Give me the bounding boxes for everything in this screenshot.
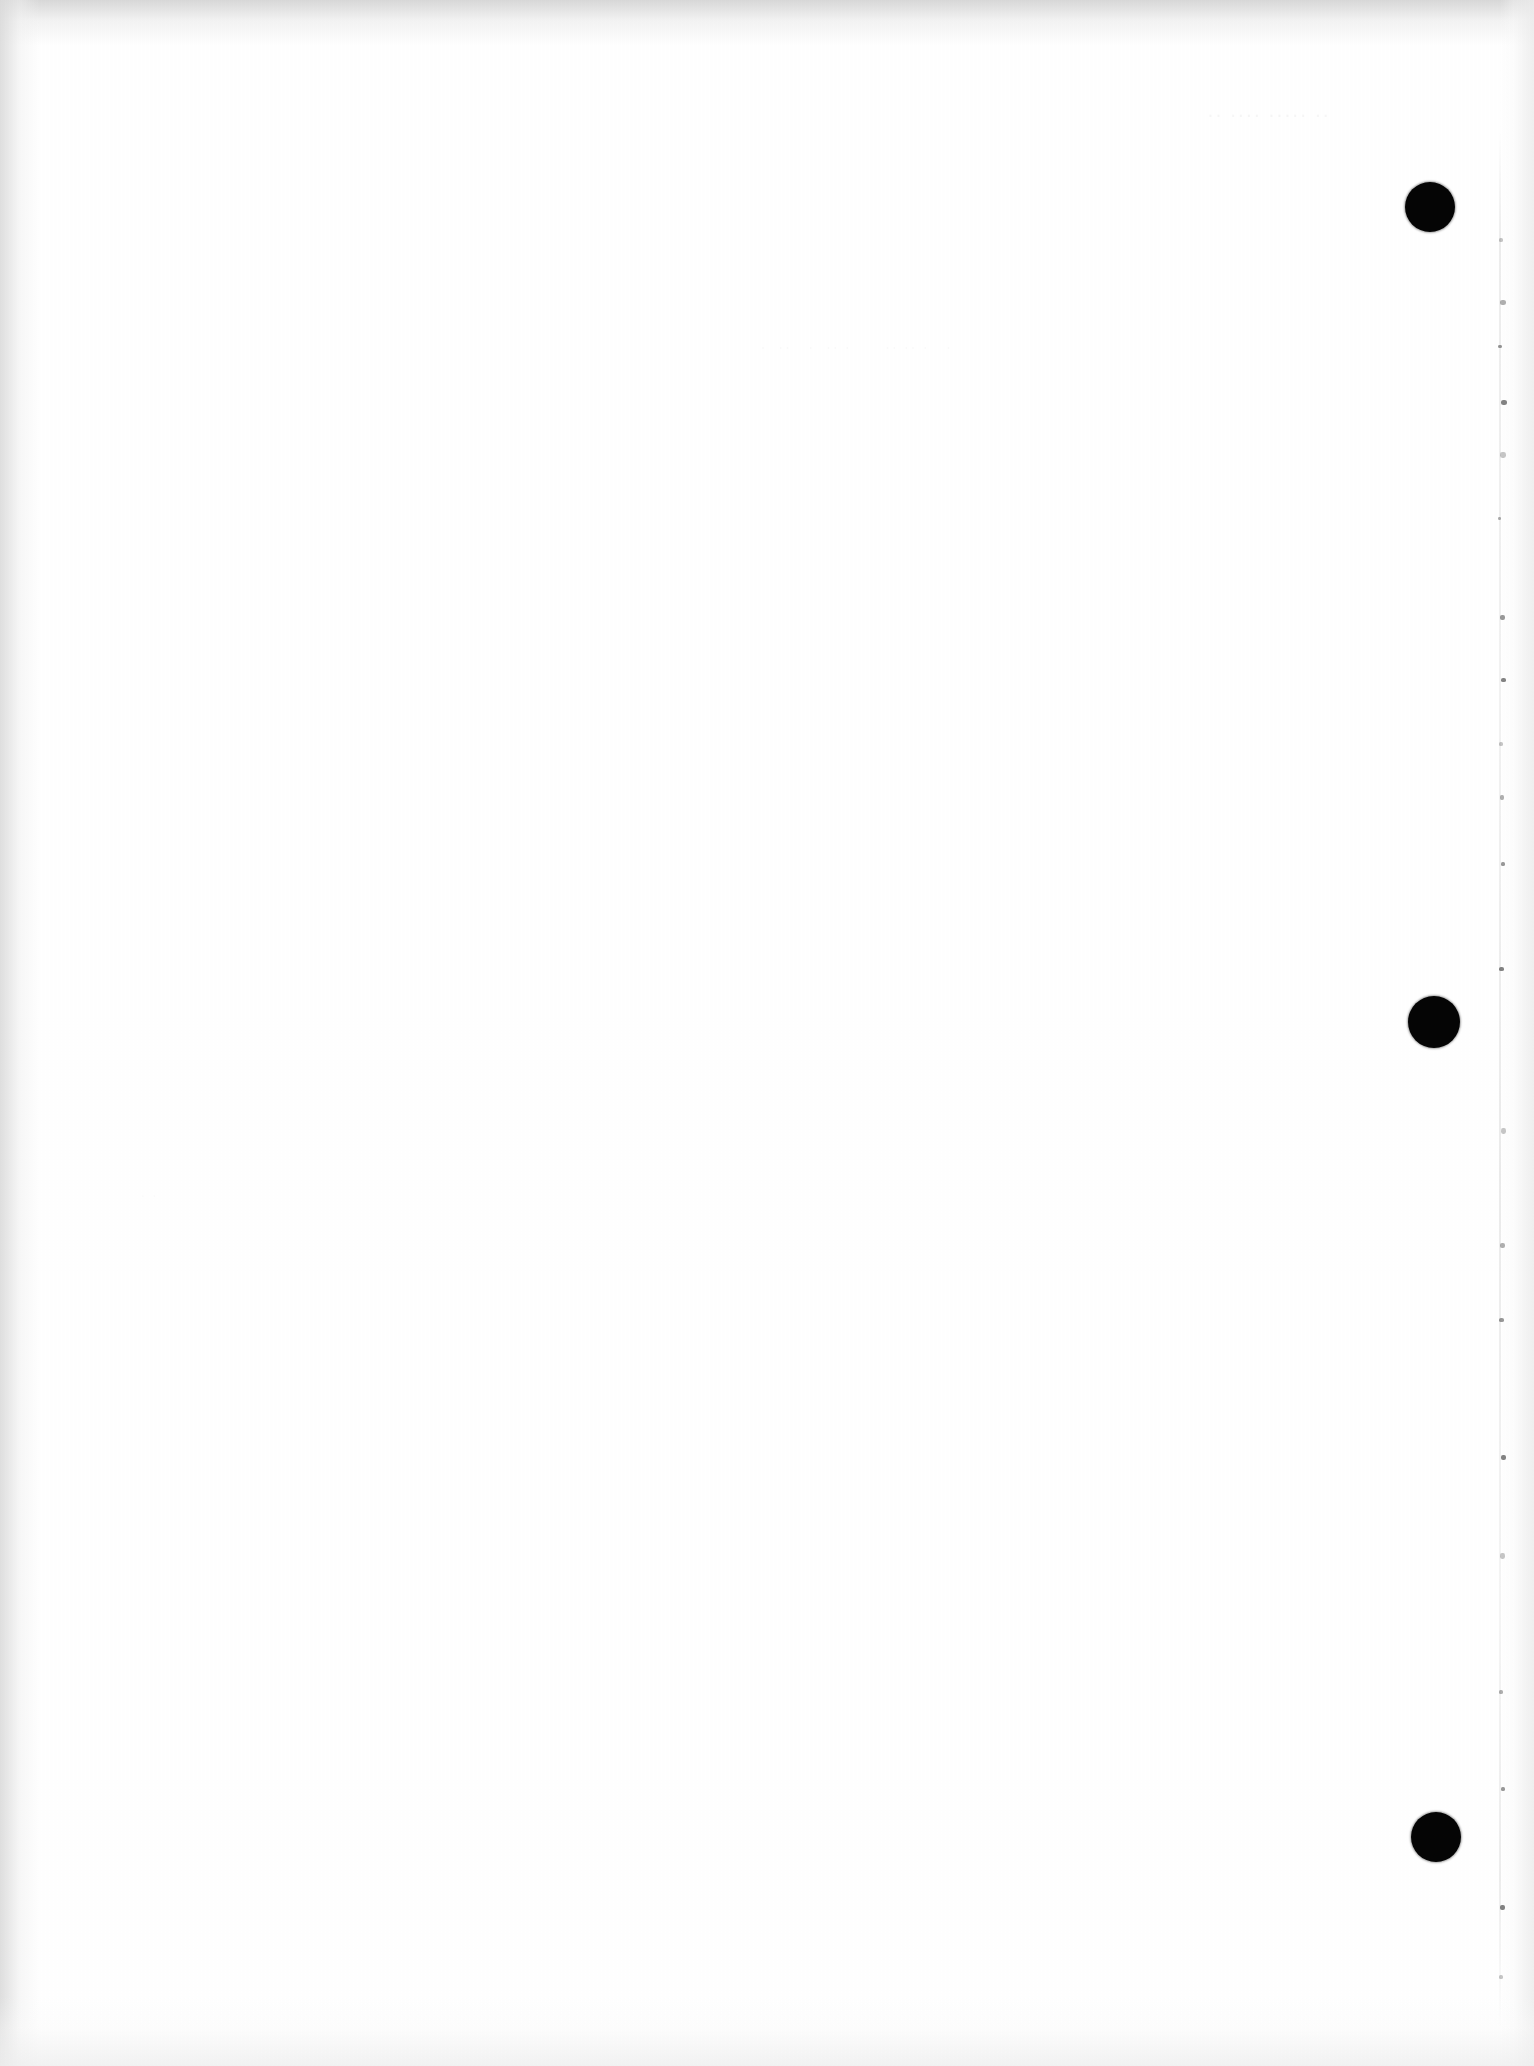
scanner-speck-15 [1499, 1318, 1504, 1322]
scanner-speck-19 [1501, 1787, 1505, 1791]
scanner-speck-11 [1501, 862, 1505, 866]
scanner-speck-6 [1498, 517, 1501, 520]
ghost-impression-top-right: ·· ···· ····· ·· [1000, 100, 1330, 130]
scanner-streak-line [1499, 130, 1501, 2030]
scanner-speck-9 [1499, 742, 1503, 746]
scanner-speck-20 [1500, 1905, 1505, 1910]
scanner-speck-5 [1500, 452, 1506, 458]
scanner-speck-4 [1501, 400, 1507, 405]
scanner-speck-13 [1501, 1128, 1506, 1134]
scan-frame: ·· ···· ····· ·· · ·· · ·· · ·· ·· · · ·… [0, 0, 1534, 2066]
page-sheet: ·· ···· ····· ·· · ·· · ·· · ·· ·· · · ·… [0, 0, 1534, 2066]
page-edge-shade-left [0, 0, 40, 2066]
scanner-speck-14 [1500, 1243, 1505, 1248]
registration-dot-middle-icon [1408, 996, 1460, 1048]
page-edge-shade-bottom [0, 1996, 1534, 2066]
scanner-speck-2 [1500, 300, 1506, 305]
registration-dot-top-icon [1405, 182, 1455, 232]
scanner-speck-8 [1501, 678, 1506, 682]
scanner-speck-12 [1499, 967, 1504, 971]
page-body-text [150, 180, 1300, 1880]
scanner-speck-10 [1500, 795, 1504, 800]
registration-dot-bottom-icon [1411, 1812, 1461, 1862]
page-edge-shade-right [1500, 0, 1534, 2066]
scanner-speck-1 [1499, 238, 1503, 242]
scanner-speck-7 [1500, 615, 1505, 620]
scanner-speck-18 [1499, 1690, 1503, 1694]
scanner-speck-21 [1499, 1975, 1503, 1979]
page-edge-shade-top [0, 0, 1534, 46]
scanner-speck-16 [1501, 1455, 1506, 1460]
scanner-speck-17 [1500, 1553, 1505, 1559]
scanner-speck-3 [1498, 345, 1502, 348]
